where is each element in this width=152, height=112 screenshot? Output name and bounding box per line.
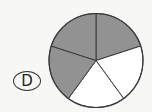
answer-option-letter: D [21, 74, 33, 89]
answer-option-label[interactable]: D [13, 71, 41, 91]
pie-chart [0, 0, 152, 112]
fraction-figure: D [0, 0, 152, 112]
